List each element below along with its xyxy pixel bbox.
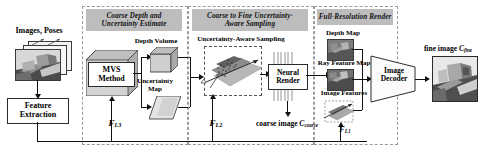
arrow-bus-to-sampling <box>210 94 216 99</box>
arrow-bus-to-mvs <box>109 96 115 101</box>
feature-l1-label: FL1 <box>330 126 360 135</box>
mvs-label-2: Method <box>98 75 125 84</box>
pose-arrows-icon <box>30 36 66 48</box>
panel-coarse-depth-title: Coarse Depth and Uncertainty Estimate <box>86 9 182 31</box>
depth-volume-label: Depth Volume <box>126 38 186 46</box>
line-feature-down <box>37 122 38 141</box>
depth-map-label: Depth Map <box>316 30 370 38</box>
image-decoder-line2: Decoder <box>376 75 412 83</box>
feature-extraction-box[interactable]: Feature Extraction <box>7 98 69 124</box>
uncertainty-map-label: Uncertainty Map <box>128 78 182 93</box>
sampling-point-cloud <box>200 46 272 96</box>
line-ray-feature-out <box>352 79 362 80</box>
fine-image-text: fine image <box>424 44 459 53</box>
line-depth-map-out <box>352 49 362 50</box>
fine-image-sub: fine <box>464 47 472 53</box>
images-poses-label: Images, Poses <box>4 27 74 36</box>
depth-map-thumb <box>327 39 354 61</box>
image-decoder-label: Image Decoder <box>376 67 412 84</box>
feature-l2-label: FL2 <box>201 119 231 129</box>
panel3-title-line1: Full-Resolution Render <box>319 13 392 21</box>
panel2-title-line2: Aware Sampling <box>207 20 293 28</box>
arrow-render-to-coarse-image <box>285 112 291 117</box>
feature-l3-sub: L3 <box>115 122 122 128</box>
arrow-decoder-to-fine-image <box>425 76 430 82</box>
fine-image-label: fine image Cfine <box>415 45 481 54</box>
depth-volume-cube <box>150 47 178 73</box>
uncertainty-map-line2: Map <box>128 86 182 94</box>
ray-feature-map-thumb <box>327 69 354 91</box>
panel-coarse-to-fine-title: Coarse to Fine Uncertainty- Aware Sampli… <box>192 9 308 31</box>
neural-render-label-2: Render <box>276 77 300 85</box>
uncertainty-map-plane <box>149 96 181 120</box>
uncertainty-aware-sampling-label: Uncertainty-Aware Sampling <box>186 36 296 44</box>
panel2-title-line1: Coarse to Fine Uncertainty- <box>207 12 293 20</box>
figure-canvas: Images, Poses Feature Extraction <box>0 0 484 155</box>
feature-l1-sub: L1 <box>345 128 351 134</box>
image-features-label: Image Features <box>313 90 375 98</box>
ray-feature-map-label: Ray Feature Map <box>312 60 376 68</box>
feature-l3-label: FL3 <box>100 119 130 129</box>
feature-l2-sub: L2 <box>216 122 223 128</box>
fine-image-thumb <box>432 56 478 102</box>
coarse-image-text: coarse image <box>256 119 299 128</box>
panel-full-resolution-title: Full-Resolution Render <box>317 9 393 25</box>
input-image-front <box>15 49 61 81</box>
feature-extraction-label-2: Extraction <box>20 111 56 120</box>
line-mvs-out <box>133 73 141 74</box>
line-image-features-out <box>353 110 362 111</box>
neural-render-box[interactable]: Neural Render <box>268 64 308 90</box>
panel1-title-line2: Uncertainty Estimate <box>102 20 167 28</box>
panel1-title-line1: Coarse Depth and <box>102 12 167 20</box>
